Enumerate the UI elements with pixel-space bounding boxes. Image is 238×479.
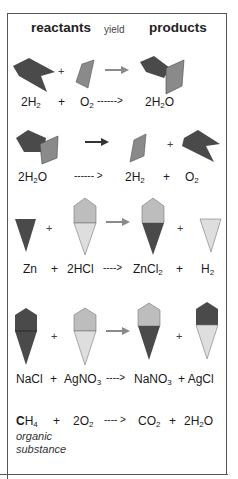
frame-top-border bbox=[7, 13, 226, 14]
frame-bottom-border bbox=[0, 474, 228, 475]
arrow-icon bbox=[85, 138, 109, 146]
formula-2h2: 2H2 bbox=[125, 170, 145, 184]
formula-2o2: 2O2 bbox=[73, 414, 93, 428]
hydrogen-triangle-icon bbox=[200, 219, 222, 253]
frame-right-border bbox=[226, 13, 227, 475]
formula-h2: H2 bbox=[201, 262, 214, 276]
formula-2h2o: 2H2O bbox=[145, 95, 174, 109]
formula-ch4: CH4 bbox=[16, 414, 38, 428]
formula-nano3: NaNO3 bbox=[134, 372, 172, 386]
formula-nacl: NaCl bbox=[16, 372, 43, 386]
reaction-arrow: ------> bbox=[97, 95, 123, 106]
header-reactants: reactants bbox=[31, 20, 91, 35]
formula-agno3: AgNO3 bbox=[64, 372, 101, 386]
agno3-hexagon-triangle-icon bbox=[74, 308, 96, 366]
formula-2h2o: 2H2O bbox=[18, 170, 47, 184]
formula-o2: O2 bbox=[80, 95, 94, 109]
plus-sign: + bbox=[50, 372, 57, 386]
plus-sign: + bbox=[163, 170, 170, 184]
plus-sign: + bbox=[167, 138, 173, 150]
header-products: products bbox=[149, 20, 207, 35]
zncl2-hexagon-triangle-icon bbox=[142, 198, 164, 256]
formula-2hcl: 2HCl bbox=[67, 262, 94, 276]
plus-sign: + bbox=[176, 262, 183, 276]
reaction-arrow: ---- > bbox=[104, 414, 126, 425]
arrow-icon bbox=[106, 218, 130, 226]
plus-sign: + bbox=[46, 222, 52, 234]
formula-zn: Zn bbox=[23, 262, 37, 276]
formula-o2: O2 bbox=[185, 170, 199, 184]
plus-sign: + bbox=[177, 222, 183, 234]
plus-sign: + bbox=[53, 414, 60, 428]
water-molecule-icon bbox=[16, 130, 60, 166]
water-molecule-icon bbox=[140, 56, 186, 96]
plus-sign: + bbox=[176, 330, 182, 342]
note-organic: organic bbox=[16, 430, 52, 443]
plus-sign: + bbox=[169, 414, 176, 428]
formula-co2: CO2 bbox=[138, 414, 160, 428]
plus-sign: + bbox=[51, 262, 58, 276]
reaction-arrow: ------ > bbox=[74, 170, 103, 181]
plus-sign: + bbox=[51, 330, 57, 342]
note-substance: substance bbox=[16, 443, 66, 456]
nacl-hexagon-triangle-icon bbox=[15, 308, 37, 366]
plus-sign: + bbox=[58, 65, 64, 77]
arrow-icon bbox=[106, 327, 130, 335]
formula-2h2o: 2H2O bbox=[184, 414, 213, 428]
zinc-triangle-icon bbox=[15, 219, 37, 253]
header-yield: yield bbox=[104, 24, 125, 35]
agcl-hexagon-triangle-icon bbox=[196, 302, 218, 360]
formula-2h2: 2H2 bbox=[21, 95, 41, 109]
frame-left-border bbox=[7, 13, 8, 479]
nano3-hexagon-triangle-icon bbox=[138, 303, 160, 361]
plus-sign: + bbox=[58, 95, 65, 109]
hydrogen-rhombus-icon bbox=[128, 134, 150, 164]
oxygen-rhombus-icon bbox=[74, 60, 96, 90]
arrow-icon bbox=[105, 66, 129, 74]
formula-agcl: + AgCl bbox=[178, 372, 214, 386]
reaction-arrow: ----> bbox=[106, 372, 125, 383]
hydrogen-chevron-icon bbox=[13, 58, 57, 94]
hcl-hexagon-triangle-icon bbox=[74, 198, 96, 256]
oxygen-chevron-icon bbox=[182, 130, 222, 166]
formula-zncl2: ZnCl2 bbox=[133, 262, 163, 276]
reaction-arrow: ----> bbox=[103, 262, 122, 273]
